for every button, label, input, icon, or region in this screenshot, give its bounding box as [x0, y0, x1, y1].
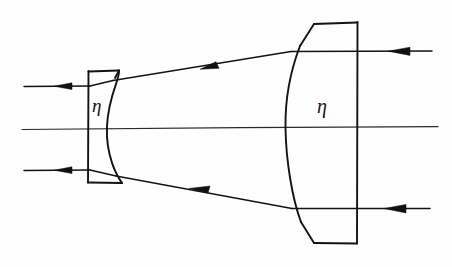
ray-upper-arrowhead-outgoing	[388, 47, 410, 55]
ray-upper-diverging	[113, 52, 291, 81]
left-lens-top-edge	[89, 71, 120, 72]
left-lens-concave-face	[107, 71, 122, 184]
ray-lower-arrowhead-incoming	[54, 167, 72, 174]
right-lens-bottom-edge	[314, 243, 357, 244]
ray-upper-arrowhead-incoming	[54, 83, 72, 90]
right-lens-plano-convex	[285, 22, 357, 244]
ray-diagram-svg: η η	[0, 0, 452, 267]
right-lens-top-bevel	[300, 24, 314, 46]
right-lens-bottom-bevel	[301, 222, 314, 243]
left-lens-plano-concave	[88, 71, 122, 184]
ray-lower-arrowhead-outgoing	[384, 204, 406, 213]
left-lens-flat-face	[88, 71, 89, 183]
optics-diagram-canvas: η η	[0, 0, 452, 267]
right-lens-top-edge	[314, 23, 358, 25]
ray-lower	[24, 167, 430, 213]
optical-axis	[22, 127, 438, 130]
ray-upper-outgoing	[291, 51, 432, 52]
ray-upper-in-lens	[90, 81, 113, 87]
right-lens-index-label: η	[317, 95, 327, 118]
right-lens-convex-face	[285, 46, 301, 222]
ray-lower-in-lens	[90, 170, 116, 176]
right-lens-flat-face	[357, 22, 358, 244]
left-lens-index-label: η	[92, 95, 101, 116]
ray-upper	[24, 47, 432, 89]
left-lens-bottom-edge	[88, 183, 122, 184]
